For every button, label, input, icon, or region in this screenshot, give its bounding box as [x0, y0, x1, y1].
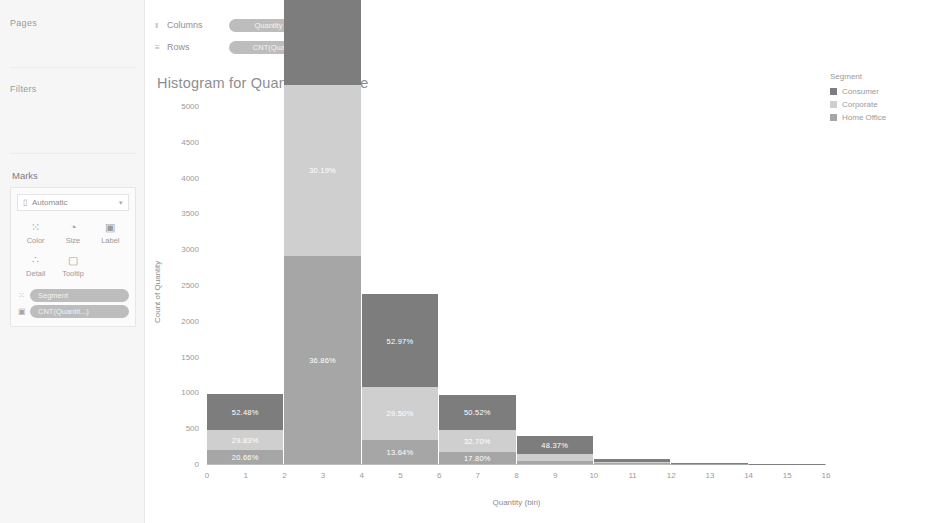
- legend-swatch-consumer: [830, 88, 837, 95]
- bar-segment-label: 30.19%: [284, 166, 360, 175]
- histogram-bar[interactable]: 52.48%29.83%20.66%: [207, 394, 283, 464]
- x-tick-label: 16: [822, 471, 831, 480]
- marks-detail-label: Detail: [17, 269, 54, 278]
- bar-segment[interactable]: 29.83%: [207, 430, 283, 450]
- bar-segment[interactable]: 20.66%: [207, 450, 283, 464]
- rows-shelf[interactable]: ≡ Rows CNT(Quantity): [155, 36, 942, 58]
- y-tick-label: 4500: [181, 137, 199, 146]
- y-tick-label: 2000: [181, 316, 199, 325]
- bar-segment-label: 17.80%: [439, 453, 515, 462]
- y-tick-label: 3000: [181, 245, 199, 254]
- rows-icon: ≡: [155, 43, 167, 52]
- bar-segment[interactable]: [517, 454, 593, 461]
- histogram-bar[interactable]: [671, 463, 747, 464]
- tableau-workbook: Pages Filters Marks ▯ Automatic ▾ ⁙ Colo…: [0, 0, 942, 523]
- color-icon-small: ⁙: [17, 291, 26, 300]
- x-tick-label: 1: [243, 471, 247, 480]
- mark-type-label: Automatic: [32, 198, 114, 207]
- bar-mark-icon: ▯: [23, 198, 27, 207]
- y-tick-label: 3500: [181, 209, 199, 218]
- bar-segment[interactable]: 32.94%: [284, 0, 360, 85]
- histogram-bar[interactable]: 48.37%: [517, 436, 593, 464]
- marks-color-button[interactable]: ⁙ Color: [17, 220, 54, 245]
- bar-segment-label: 52.97%: [362, 336, 438, 345]
- legend-swatch-corporate: [830, 101, 837, 108]
- x-tick-label: 3: [321, 471, 325, 480]
- bar-segment-label: 32.70%: [439, 436, 515, 445]
- marks-tooltip-button[interactable]: ▢ Tooltip: [54, 253, 91, 278]
- marks-tooltip-label: Tooltip: [54, 269, 91, 278]
- marks-card-title: Marks: [12, 170, 136, 181]
- x-axis-ticks: 012345678910111213141516: [207, 469, 826, 485]
- marks-label-button[interactable]: ▣ Label: [92, 220, 129, 245]
- x-tick-label: 8: [514, 471, 518, 480]
- x-tick-label: 4: [360, 471, 364, 480]
- columns-shelf[interactable]: ‖ Columns Quantity (bin): [155, 14, 942, 36]
- x-tick-label: 2: [282, 471, 286, 480]
- marks-size-button[interactable]: ◔ Size: [54, 220, 91, 245]
- bar-segment[interactable]: [594, 463, 670, 464]
- bar-segment-label: 52.48%: [207, 407, 283, 416]
- tooltip-icon: ▢: [54, 253, 91, 268]
- y-tick-label: 2500: [181, 281, 199, 290]
- columns-rows-shelves: ‖ Columns Quantity (bin) ≡ Rows CNT(Quan…: [145, 0, 942, 58]
- y-tick-label: 4000: [181, 173, 199, 182]
- mark-type-dropdown[interactable]: ▯ Automatic ▾: [17, 194, 129, 211]
- x-tick-label: 13: [705, 471, 714, 480]
- bar-segment-label: 29.83%: [207, 435, 283, 444]
- bar-segment[interactable]: 29.50%: [362, 387, 438, 440]
- bar-segment[interactable]: 13.64%: [362, 440, 438, 464]
- marks-color-label: Color: [17, 236, 54, 245]
- bar-segment[interactable]: 52.97%: [362, 294, 438, 387]
- x-tick-label: 15: [783, 471, 792, 480]
- columns-shelf-label: Columns: [167, 20, 229, 30]
- filters-shelf-dropzone[interactable]: [10, 98, 136, 154]
- bar-segment[interactable]: 52.48%: [207, 394, 283, 430]
- histogram-bar[interactable]: 32.94%30.19%36.86%: [284, 0, 360, 464]
- marks-detail-button[interactable]: ∴ Detail: [17, 253, 54, 278]
- bar-segment[interactable]: 36.86%: [284, 256, 360, 464]
- legend-label-corporate: Corporate: [842, 100, 878, 109]
- plot-area: 52.48%29.83%20.66%32.94%30.19%36.86%52.9…: [207, 106, 826, 465]
- x-tick-label: 7: [476, 471, 480, 480]
- pages-shelf-dropzone[interactable]: [10, 32, 136, 68]
- filters-shelf-label: Filters: [10, 84, 136, 94]
- detail-icon: ∴: [17, 253, 54, 268]
- bar-segment[interactable]: 32.70%: [439, 430, 515, 452]
- legend-title: Segment: [830, 72, 934, 81]
- legend-label-home-office: Home Office: [842, 113, 886, 122]
- x-tick-label: 12: [667, 471, 676, 480]
- bar-segment[interactable]: 17.80%: [439, 452, 515, 464]
- x-tick-label: 11: [628, 471, 636, 480]
- chevron-down-icon: ▾: [119, 199, 123, 207]
- chart-container: Count of Quantity 0500100015002000250030…: [145, 98, 830, 523]
- legend-item-home-office[interactable]: Home Office: [830, 113, 934, 122]
- marks-pill-row-count[interactable]: ▣ CNT(Quantit...): [17, 305, 129, 318]
- label-icon: ▣: [92, 220, 129, 235]
- histogram-bar[interactable]: 52.97%29.50%13.64%: [362, 294, 438, 464]
- legend-item-consumer[interactable]: Consumer: [830, 87, 934, 96]
- marks-pill-row-segment[interactable]: ⁙ Segment: [17, 289, 129, 302]
- x-tick-label: 9: [553, 471, 557, 480]
- y-tick-label: 5000: [181, 102, 199, 111]
- color-icon: ⁙: [17, 220, 54, 235]
- bar-segment[interactable]: [517, 461, 593, 464]
- y-tick-label: 1000: [181, 388, 199, 397]
- bar-segment[interactable]: 48.37%: [517, 436, 593, 454]
- legend-item-corporate[interactable]: Corporate: [830, 100, 934, 109]
- marks-pill-cnt-quantity[interactable]: CNT(Quantit...): [30, 305, 129, 318]
- y-tick-label: 1500: [181, 352, 199, 361]
- columns-icon: ‖: [155, 21, 167, 30]
- bar-segment-label: 20.66%: [207, 452, 283, 461]
- marks-pill-segment[interactable]: Segment: [30, 289, 129, 302]
- bar-segment[interactable]: 30.19%: [284, 85, 360, 255]
- x-tick-label: 6: [437, 471, 441, 480]
- bar-segment[interactable]: 50.52%: [439, 395, 515, 429]
- bar-segment-label: 36.86%: [284, 355, 360, 364]
- legend-swatch-home-office: [830, 114, 837, 121]
- worksheet-canvas: ‖ Columns Quantity (bin) ≡ Rows CNT(Quan…: [145, 0, 942, 523]
- mark-property-buttons: ⁙ Color ◔ Size ▣ Label ∴ Detail ▢ Tool: [17, 220, 129, 286]
- histogram-bar[interactable]: [594, 459, 670, 464]
- histogram-bar[interactable]: 50.52%32.70%17.80%: [439, 395, 515, 464]
- x-tick-label: 0: [205, 471, 209, 480]
